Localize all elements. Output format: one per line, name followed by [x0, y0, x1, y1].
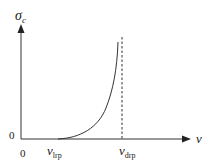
x-axis-arrow-icon [182, 136, 191, 143]
origin-y-label: 0 [9, 129, 15, 141]
marker-v-drp: vdrp [119, 143, 135, 160]
x-axis-label: v [196, 131, 202, 146]
y-axis-label: σc [15, 8, 26, 25]
marker-v-lrp: vlrp [47, 143, 62, 160]
diagram: σc v 0 0 vlrp vdrp [0, 0, 208, 165]
origin-x-label: 0 [20, 147, 26, 159]
sigma-curve [58, 42, 118, 139]
y-axis-arrow-icon [18, 24, 25, 33]
